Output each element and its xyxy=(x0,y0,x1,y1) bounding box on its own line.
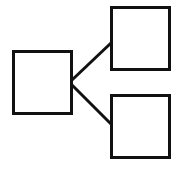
tree-diagram xyxy=(0,0,180,169)
child-node-top xyxy=(112,8,170,70)
edge-root-to-bottom xyxy=(72,85,111,124)
edge-root-to-top xyxy=(72,43,111,80)
root-node xyxy=(14,52,72,114)
child-node-bottom xyxy=(112,96,170,158)
